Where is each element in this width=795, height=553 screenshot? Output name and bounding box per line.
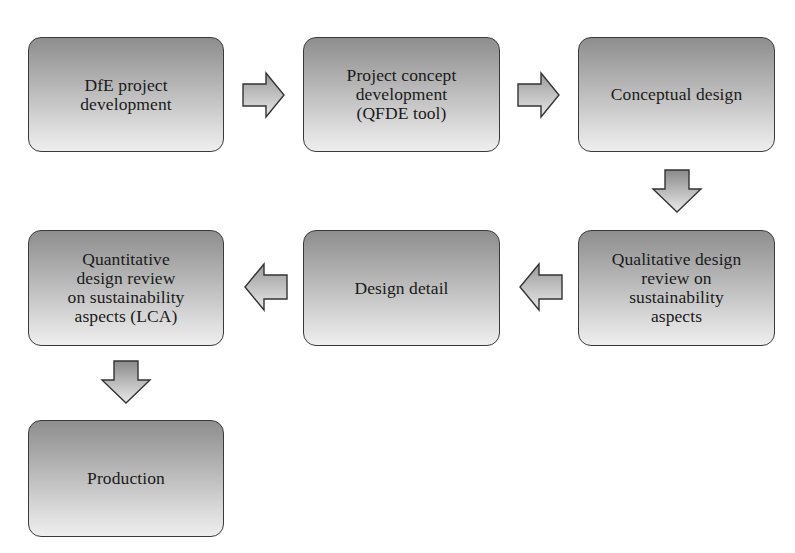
box-label: Design detail <box>354 279 448 298</box>
arrow-left-icon <box>244 263 288 311</box>
box-design-detail: Design detail <box>303 230 500 346</box>
box-project-concept-development: Project concept development (QFDE tool) <box>303 37 500 152</box>
box-label: Conceptual design <box>611 85 742 104</box>
box-qualitative-design-review: Qualitative design review on sustainabil… <box>578 230 775 346</box>
arrow-right-icon <box>242 72 286 118</box>
arrow-down-icon <box>652 169 702 213</box>
box-label: Qualitative design review on sustainabil… <box>612 250 742 326</box>
box-production: Production <box>28 420 224 537</box>
box-conceptual-design: Conceptual design <box>578 37 775 152</box>
box-quantitative-design-review: Quantitative design review on sustainabi… <box>28 230 224 346</box>
box-dfe-project-development: DfE project development <box>28 37 224 152</box>
box-label: Project concept development (QFDE tool) <box>347 66 457 123</box>
arrow-down-icon <box>101 360 151 404</box>
box-label: Production <box>87 469 165 488</box>
arrow-left-icon <box>519 263 563 311</box>
box-label: Quantitative design review on sustainabi… <box>68 250 185 326</box>
box-label: DfE project development <box>80 76 172 114</box>
arrow-right-icon <box>517 72 561 118</box>
